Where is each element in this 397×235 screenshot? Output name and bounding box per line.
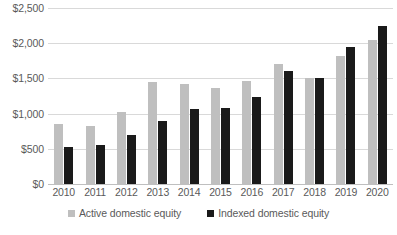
bar-indexed-2018[interactable] bbox=[315, 78, 324, 184]
bar-active-2010[interactable] bbox=[54, 124, 63, 184]
legend-swatch-indexed-icon bbox=[207, 210, 214, 217]
bar-group-2015 bbox=[205, 8, 236, 184]
legend-swatch-active-icon bbox=[68, 210, 75, 217]
bar-group-2020 bbox=[362, 8, 393, 184]
y-axis-tick-label: $1,500 bbox=[0, 73, 44, 83]
bar-group-2017 bbox=[268, 8, 299, 184]
x-axis-tick-label: 2014 bbox=[173, 186, 204, 198]
bar-group-2018 bbox=[299, 8, 330, 184]
bar-indexed-2014[interactable] bbox=[190, 109, 199, 184]
bar-active-2017[interactable] bbox=[274, 64, 283, 184]
plot-area bbox=[48, 8, 393, 184]
bar-indexed-2020[interactable] bbox=[378, 26, 387, 184]
bar-active-2013[interactable] bbox=[148, 82, 157, 184]
bar-indexed-2015[interactable] bbox=[221, 108, 230, 184]
x-axis-tick-label: 2015 bbox=[205, 186, 236, 198]
bar-group-2012 bbox=[111, 8, 142, 184]
legend-item-indexed[interactable]: Indexed domestic equity bbox=[207, 208, 329, 219]
y-axis-tick-label: $2,000 bbox=[0, 38, 44, 48]
bar-active-2019[interactable] bbox=[336, 56, 345, 184]
bar-group-2019 bbox=[330, 8, 361, 184]
y-axis-tick-label: $2,500 bbox=[0, 3, 44, 13]
bar-active-2014[interactable] bbox=[180, 84, 189, 184]
legend-label: Active domestic equity bbox=[79, 208, 181, 219]
y-axis-tick-label: $1,000 bbox=[0, 109, 44, 119]
plot-wrapper: $2,500$2,000$1,500$1,000$500$0 bbox=[0, 8, 397, 184]
x-axis: 2010201120122013201420152016201720182019… bbox=[48, 186, 393, 198]
bar-active-2018[interactable] bbox=[305, 78, 314, 184]
y-axis-tick-label: $500 bbox=[0, 144, 44, 154]
x-axis-tick-label: 2012 bbox=[111, 186, 142, 198]
x-axis-tick-label: 2019 bbox=[330, 186, 361, 198]
legend-label: Indexed domestic equity bbox=[218, 208, 329, 219]
axis-baseline bbox=[48, 184, 393, 185]
bar-active-2020[interactable] bbox=[368, 40, 377, 184]
bar-group-2013 bbox=[142, 8, 173, 184]
bar-indexed-2010[interactable] bbox=[64, 147, 73, 184]
bar-chart: $2,500$2,000$1,500$1,000$500$0 201020112… bbox=[0, 0, 397, 235]
x-axis-tick-label: 2011 bbox=[79, 186, 110, 198]
legend-item-active[interactable]: Active domestic equity bbox=[68, 208, 181, 219]
bar-group-2016 bbox=[236, 8, 267, 184]
x-axis-tick-label: 2016 bbox=[236, 186, 267, 198]
x-axis-tick-label: 2010 bbox=[48, 186, 79, 198]
bar-active-2015[interactable] bbox=[211, 88, 220, 184]
x-axis-tick-label: 2018 bbox=[299, 186, 330, 198]
bar-indexed-2017[interactable] bbox=[284, 71, 293, 184]
chart-legend: Active domestic equityIndexed domestic e… bbox=[0, 208, 397, 219]
bar-indexed-2016[interactable] bbox=[252, 97, 261, 184]
bar-active-2011[interactable] bbox=[86, 126, 95, 184]
bar-group-2011 bbox=[79, 8, 110, 184]
bar-indexed-2011[interactable] bbox=[96, 145, 105, 184]
x-axis-tick-label: 2020 bbox=[362, 186, 393, 198]
x-axis-tick-label: 2013 bbox=[142, 186, 173, 198]
bar-group-2014 bbox=[173, 8, 204, 184]
y-axis: $2,500$2,000$1,500$1,000$500$0 bbox=[0, 8, 44, 184]
bar-active-2012[interactable] bbox=[117, 112, 126, 185]
bar-group-2010 bbox=[48, 8, 79, 184]
y-axis-tick-label: $0 bbox=[0, 179, 44, 189]
bar-groups bbox=[48, 8, 393, 184]
x-axis-tick-label: 2017 bbox=[268, 186, 299, 198]
bar-active-2016[interactable] bbox=[242, 81, 251, 184]
bar-indexed-2013[interactable] bbox=[158, 121, 167, 184]
bar-indexed-2012[interactable] bbox=[127, 135, 136, 184]
bar-indexed-2019[interactable] bbox=[346, 47, 355, 184]
